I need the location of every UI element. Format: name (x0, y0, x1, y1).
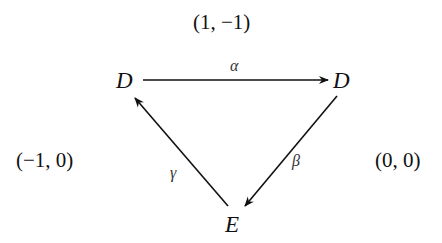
label-beta: β (292, 153, 300, 169)
node-d-right: D (333, 69, 350, 92)
annotation-right: (0, 0) (375, 150, 421, 171)
node-e: E (225, 213, 239, 236)
annotation-top: (1, −1) (193, 12, 250, 33)
arrow-gamma (135, 98, 228, 206)
label-alpha: α (230, 58, 238, 74)
label-gamma: γ (170, 165, 176, 181)
arrows-layer (0, 0, 442, 243)
annotation-left: (−1, 0) (16, 150, 73, 171)
arrow-beta (245, 96, 337, 206)
node-d-left: D (116, 69, 133, 92)
